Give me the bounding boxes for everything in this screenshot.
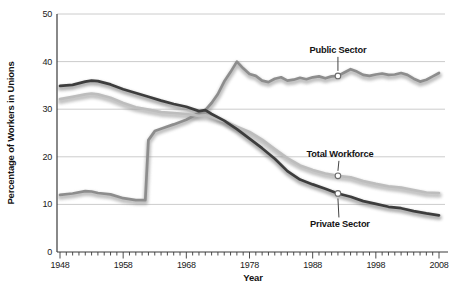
annotation-leader-private-sector xyxy=(338,198,339,217)
x-tick-label-1958: 1958 xyxy=(114,260,133,270)
x-tick-label-1978: 1978 xyxy=(240,260,259,270)
annotation-dot-public-sector xyxy=(335,73,341,79)
annotation-leader-total-workforce xyxy=(338,161,339,171)
x-tick-label-2008: 2008 xyxy=(430,260,449,270)
y-tick-label-40: 40 xyxy=(43,57,53,67)
y-tick-label-50: 50 xyxy=(43,9,53,19)
series-label-public-sector: Public Sector xyxy=(310,45,367,55)
x-tick-label-1998: 1998 xyxy=(366,260,385,270)
y-tick-label-0: 0 xyxy=(47,247,52,257)
x-tick-label-1968: 1968 xyxy=(177,260,196,270)
x-tick-label-1988: 1988 xyxy=(303,260,322,270)
series-label-private-sector: Private Sector xyxy=(310,219,370,229)
series-shadow-total-workforce xyxy=(60,96,439,196)
x-axis-title: Year xyxy=(243,272,262,283)
x-tick-label-1948: 1948 xyxy=(51,260,70,270)
y-tick-label-30: 30 xyxy=(43,104,53,114)
union-membership-figure: 194819581968197819881998200801020304050P… xyxy=(0,0,463,294)
annotation-dot-total-workforce xyxy=(335,173,341,179)
y-axis-title-text: Percentage of Workers in Unions xyxy=(5,61,16,204)
y-tick-label-10: 10 xyxy=(43,199,53,209)
union-chart-svg: 194819581968197819881998200801020304050P… xyxy=(0,0,463,294)
y-tick-label-20: 20 xyxy=(43,152,53,162)
annotation-dot-private-sector xyxy=(335,191,341,197)
series-label-total-workforce: Total Workforce xyxy=(306,149,373,159)
